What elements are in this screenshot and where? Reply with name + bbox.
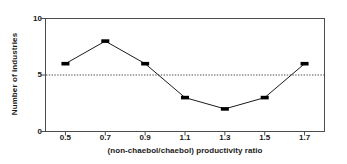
data-point-marker bbox=[61, 62, 69, 66]
data-point-markers bbox=[61, 39, 308, 110]
data-point-marker bbox=[301, 62, 309, 66]
data-point-marker bbox=[101, 39, 109, 43]
data-point-marker bbox=[221, 107, 229, 111]
x-axis-tick-marks bbox=[65, 132, 304, 136]
plot-area bbox=[0, 0, 347, 164]
chart-figure: Number of industries 10 5 0 0.5 0.7 0.9 … bbox=[0, 0, 347, 164]
y-axis-tick-marks bbox=[41, 19, 46, 132]
data-point-marker bbox=[261, 96, 269, 100]
data-point-marker bbox=[181, 96, 189, 100]
data-point-marker bbox=[141, 62, 149, 66]
plot-frame bbox=[46, 19, 325, 132]
